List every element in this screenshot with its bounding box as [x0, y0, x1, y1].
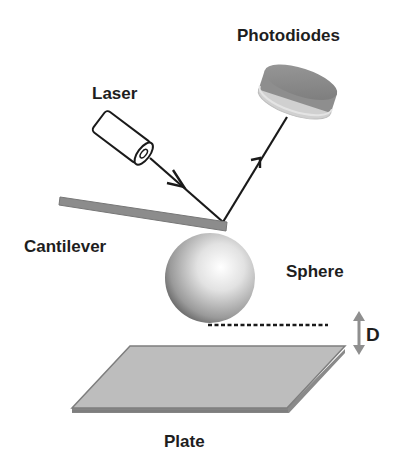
laser-label: Laser: [92, 84, 138, 103]
plate: [72, 346, 345, 413]
double-arrow-icon: [353, 311, 365, 355]
plate-label: Plate: [164, 432, 205, 451]
incident-arrow-icon: [167, 170, 184, 187]
sphere-label: Sphere: [286, 262, 344, 281]
laser-icon: [91, 110, 156, 168]
distance-label: D: [366, 324, 380, 345]
photodiodes-label: Photodiodes: [237, 26, 340, 45]
photodiode-icon: [254, 57, 341, 126]
sphere: [165, 233, 255, 323]
reflected-laser-beam: [223, 117, 287, 222]
cantilever-label: Cantilever: [24, 237, 107, 256]
afm-setup-diagram: Photodiodes Laser Cantilever Sphere D: [0, 0, 410, 467]
